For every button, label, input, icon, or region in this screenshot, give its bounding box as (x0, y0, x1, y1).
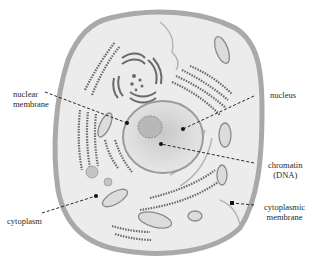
label-cytoplasm-line1: cytoplasm (7, 216, 42, 226)
label-cytoplasmic-membrane-line2: membrane (264, 212, 305, 222)
label-cytoplasmic-membrane-line1: cytoplasmic (264, 202, 305, 212)
label-nucleus-line1: nucleus (270, 90, 296, 100)
label-chromatin: chromatin (DNA) (268, 160, 302, 180)
nucleus (123, 101, 203, 173)
cell-diagram (0, 0, 314, 267)
label-cytoplasmic-membrane: cytoplasmic membrane (264, 202, 305, 222)
label-nuclear-membrane: nuclear membrane (13, 89, 49, 109)
label-chromatin-line2: (DNA) (268, 170, 302, 180)
label-nuclear-membrane-line1: nuclear (13, 89, 49, 99)
label-cytoplasm: cytoplasm (7, 216, 42, 226)
label-nuclear-membrane-line2: membrane (13, 99, 49, 109)
label-chromatin-line1: chromatin (268, 160, 302, 170)
label-nucleus: nucleus (270, 90, 296, 100)
